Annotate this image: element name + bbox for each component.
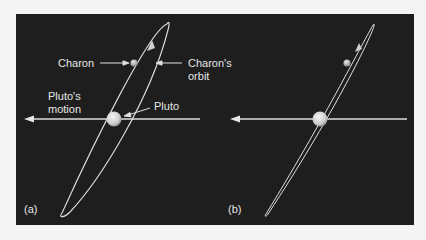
charon-moon-b [343, 59, 350, 66]
pluto-charon-diagram [0, 0, 426, 240]
pluto-leader-line [128, 108, 150, 115]
plutos-motion-label-line2: motion [48, 103, 81, 115]
charons-orbit-label-line1: Charon's [188, 57, 232, 69]
charon-moon [130, 59, 137, 66]
pluto-planet [107, 112, 122, 127]
panel-a-label: (a) [24, 203, 37, 215]
plutos-motion-label-line1: Pluto's [48, 90, 81, 102]
panel-b-label: (b) [228, 203, 241, 215]
pluto-label: Pluto [154, 100, 179, 112]
charons-orbit-label-line2: orbit [188, 70, 209, 82]
panel-b [230, 24, 407, 216]
charon-label: Charon [58, 57, 94, 69]
charon-leader-arrowhead [123, 61, 129, 65]
pluto-leader-arrowhead [124, 113, 131, 117]
pluto-planet-b [313, 112, 328, 127]
panel-a [24, 22, 200, 216]
